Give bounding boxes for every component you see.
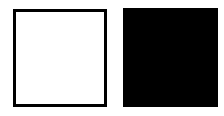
filled-square xyxy=(123,8,218,107)
outlined-square xyxy=(13,9,107,107)
